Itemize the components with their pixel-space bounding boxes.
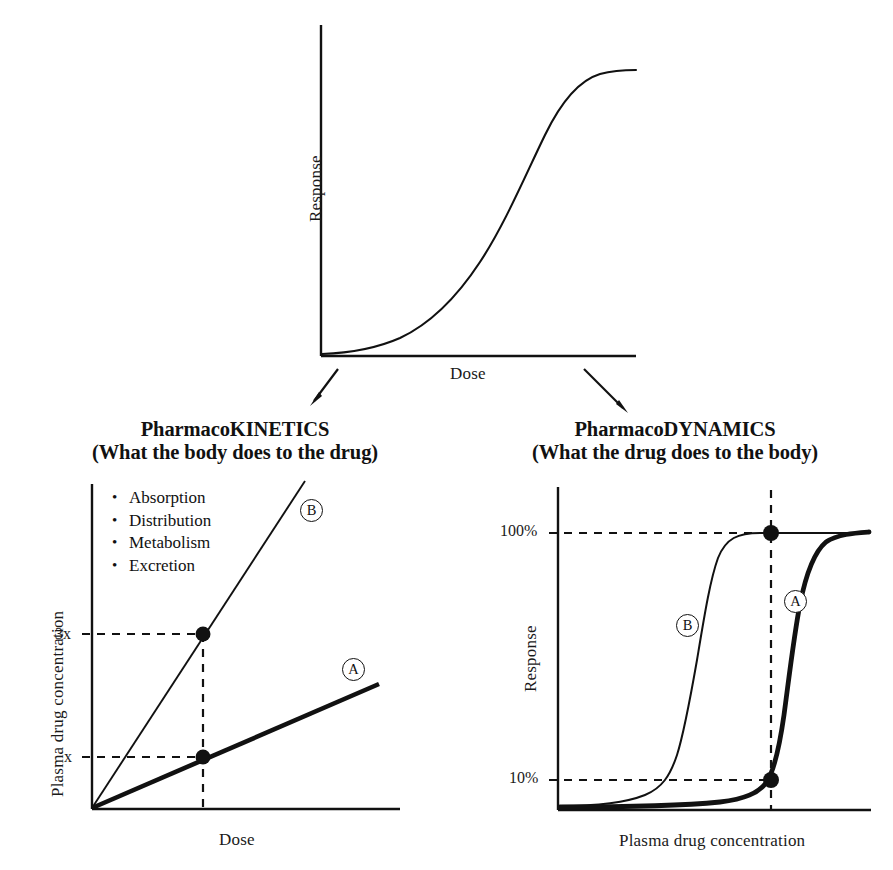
pd-curve-b (560, 533, 869, 806)
pd-chart-x-axis-label: Plasma drug concentration (619, 831, 805, 851)
top-chart-y-axis-label: Response (306, 155, 326, 222)
pharmacokinetics-title: PharmacoKINETICS (20, 418, 450, 441)
top-chart-axes (321, 25, 636, 356)
pd-dashed-guides (549, 490, 771, 810)
pd-chart-axes (558, 487, 871, 810)
pk-datapoint-b (196, 627, 211, 642)
pk-curve-a-label: A (342, 658, 365, 681)
pd-ytick-100: 100% (500, 522, 537, 540)
pk-chart-x-axis-label: Dose (219, 830, 255, 850)
top-chart-x-axis-label: Dose (450, 364, 486, 384)
list-item: Absorption (112, 487, 211, 510)
pharmacodynamics-title: PharmacoDYNAMICS (460, 418, 890, 441)
pd-curve-a (560, 532, 869, 807)
list-item: Distribution (112, 510, 211, 533)
list-item: Excretion (112, 555, 211, 578)
pk-curve-a (92, 684, 379, 808)
pk-dashed-guides (82, 634, 203, 809)
pd-datapoint-a-10 (763, 772, 779, 788)
pd-chart-y-axis-label: Response (521, 625, 541, 692)
pharmacology-figure: Response Dose PharmacoKINETICS (What the… (0, 0, 893, 870)
pharmacokinetics-process-list: Absorption Distribution Metabolism Excre… (112, 487, 211, 577)
pk-ytick-3x: 3x (55, 625, 71, 643)
pk-datapoint-a (196, 750, 211, 765)
pd-curve-a-label: A (784, 590, 807, 613)
top-chart-sigmoid-curve (322, 70, 636, 354)
pharmacodynamics-subtitle: (What the drug does to the body) (460, 441, 890, 464)
pd-ytick-10: 10% (509, 769, 538, 787)
pk-ytick-x: x (64, 748, 72, 766)
arrow-to-pharmacokinetics (310, 369, 338, 406)
list-item: Metabolism (112, 532, 211, 555)
arrow-to-pharmacodynamics (584, 369, 628, 413)
pharmacokinetics-title-block: PharmacoKINETICS (What the body does to … (20, 418, 450, 464)
pharmacodynamics-title-block: PharmacoDYNAMICS (What the drug does to … (460, 418, 890, 464)
pharmacokinetics-subtitle: (What the body does to the drug) (20, 441, 450, 464)
pd-datapoint-b-100 (763, 525, 779, 541)
pd-curve-b-label: B (676, 614, 699, 637)
pk-curve-b-label: B (300, 499, 323, 522)
